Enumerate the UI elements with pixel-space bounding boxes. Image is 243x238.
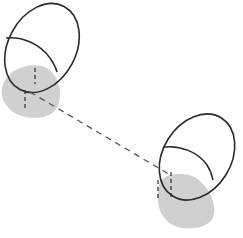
diagram-canvas <box>0 0 243 238</box>
